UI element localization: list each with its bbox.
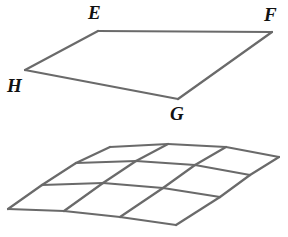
grid-line-row-1-0 <box>76 161 136 163</box>
quad-edge-he <box>25 31 98 70</box>
grid-line-col-1-1 <box>103 161 136 183</box>
vertex-label-h: H <box>7 76 22 95</box>
grid-line-col-1-0 <box>136 144 168 161</box>
grid-line-row-2-2 <box>163 188 220 197</box>
figure-canvas <box>0 0 288 237</box>
grid-line-col-3-0 <box>250 157 279 175</box>
grid-line-row-2-0 <box>42 183 103 185</box>
grid-line-row-1-2 <box>195 165 250 175</box>
quadrilateral-efgh <box>25 31 272 99</box>
grid-line-row-0-2 <box>226 147 279 157</box>
grid-line-row-3-2 <box>120 217 176 225</box>
grid-line-col-3-2 <box>176 197 220 225</box>
grid-line-row-0-1 <box>168 144 226 147</box>
grid-line-row-3-0 <box>8 209 64 211</box>
plane-grid-mesh <box>8 144 279 225</box>
quad-edge-fg <box>178 32 272 99</box>
grid-line-col-2-0 <box>195 147 226 165</box>
grid-line-col-3-1 <box>220 175 250 197</box>
quad-edge-ef <box>98 31 272 32</box>
vertex-label-g: G <box>170 104 184 123</box>
grid-line-row-1-1 <box>136 161 195 165</box>
grid-line-row-3-1 <box>64 211 120 217</box>
grid-line-col-0-1 <box>42 163 76 185</box>
grid-line-col-1-2 <box>64 183 103 211</box>
vertex-label-e: E <box>88 3 101 22</box>
grid-line-col-2-2 <box>120 188 163 217</box>
geometry-figure: E F G H <box>0 0 288 237</box>
grid-line-row-2-1 <box>103 183 163 188</box>
quad-edge-gh <box>25 70 178 99</box>
grid-line-col-2-1 <box>163 165 195 188</box>
grid-line-row-0-0 <box>110 144 168 147</box>
vertex-label-f: F <box>264 5 277 24</box>
grid-line-col-0-0 <box>76 147 110 163</box>
grid-line-col-0-2 <box>8 185 42 209</box>
